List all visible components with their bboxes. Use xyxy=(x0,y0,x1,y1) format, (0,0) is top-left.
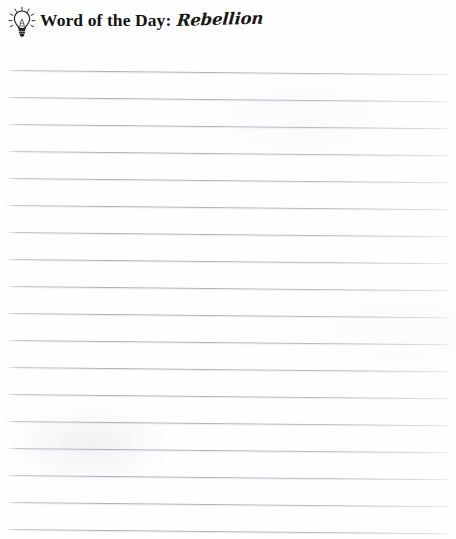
writing-line[interactable] xyxy=(6,286,449,291)
writing-line[interactable] xyxy=(6,529,449,534)
writing-line[interactable] xyxy=(6,502,449,507)
word-of-the-day-value: Rebellion xyxy=(176,8,264,32)
writing-line[interactable] xyxy=(6,232,449,237)
writing-line[interactable] xyxy=(6,124,449,129)
writing-line[interactable] xyxy=(6,448,449,453)
writing-line[interactable] xyxy=(6,205,449,210)
worksheet-page: Word of the Day: Rebellion xyxy=(0,0,456,539)
writing-line[interactable] xyxy=(6,367,449,372)
paper-texture xyxy=(0,0,456,539)
writing-line[interactable] xyxy=(6,313,449,318)
page-title: Word of the Day: Rebellion xyxy=(40,9,263,32)
writing-line[interactable] xyxy=(6,340,449,345)
writing-line[interactable] xyxy=(6,259,449,264)
writing-line[interactable] xyxy=(6,475,449,480)
ruled-lines-area xyxy=(0,0,456,539)
writing-line[interactable] xyxy=(6,70,449,75)
word-of-the-day-label: Word of the Day: xyxy=(40,9,171,31)
writing-line[interactable] xyxy=(6,97,449,102)
writing-line[interactable] xyxy=(6,178,449,183)
writing-line[interactable] xyxy=(6,151,449,156)
page-header: Word of the Day: Rebellion xyxy=(0,0,456,46)
writing-line[interactable] xyxy=(6,394,449,399)
lightbulb-icon xyxy=(7,6,37,40)
writing-line[interactable] xyxy=(6,421,449,426)
